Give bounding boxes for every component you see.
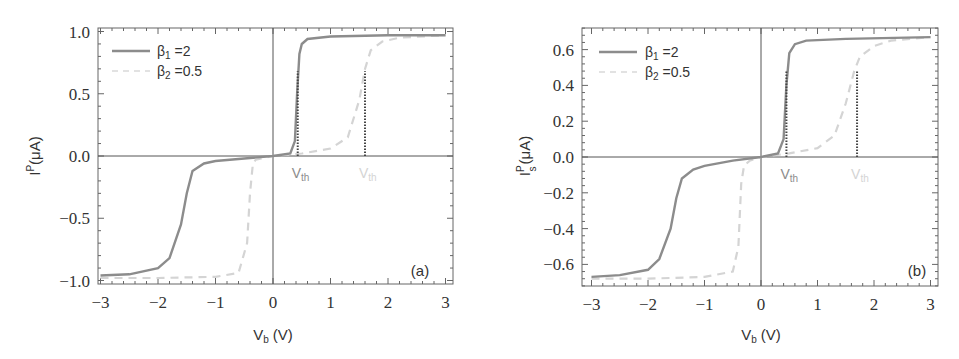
y-tick-labels: 0.60.40.20.0−0.2−0.4−0.6: [543, 41, 574, 275]
x-axis-label: Vb (V): [253, 326, 293, 345]
x-tick-label: 1: [326, 293, 335, 312]
panel-b: 0.60.40.20.0−0.2−0.4−0.6 −3−2−10123 Vth …: [515, 28, 938, 345]
x-tick-labels: −3−2−10123: [91, 293, 449, 312]
y-axis-label: IP(μA): [25, 136, 43, 175]
panel-a: 1.00.50.0−0.5−1.0 −3−2−10123 Vth Vth β1 …: [25, 23, 453, 346]
x-tick-label: 3: [926, 295, 935, 314]
x-tick-label: 1: [813, 295, 822, 314]
x-tick-label: 2: [870, 295, 879, 314]
x-tick-label: −3: [582, 295, 600, 314]
vth-label-beta2: Vth: [359, 165, 377, 183]
vth-label-beta2: Vth: [851, 166, 869, 184]
x-tick-label: −1: [206, 293, 224, 312]
y-tick-label: −0.6: [543, 255, 574, 274]
y-axis-label: IPs(μA): [515, 136, 538, 176]
y-tick-label: −0.5: [59, 209, 90, 228]
vth-label-beta1: Vth: [780, 166, 798, 184]
y-tick-label: −0.4: [543, 220, 574, 239]
x-tick-label: −2: [149, 293, 167, 312]
legend-label-beta1: β1 =2: [645, 44, 679, 62]
y-tick-label: 0.6: [553, 41, 574, 60]
x-tick-labels: −3−2−10123: [582, 295, 934, 314]
vth-label-beta1: Vth: [292, 165, 310, 183]
x-tick-label: 2: [384, 293, 393, 312]
y-tick-label: 0.0: [553, 148, 574, 167]
legend: β1 =2 β2 =0.5: [112, 43, 202, 81]
y-tick-label: 0.5: [69, 85, 90, 104]
x-tick-label: −3: [91, 293, 109, 312]
y-tick-label: 0.2: [553, 112, 574, 131]
legend-label-beta2: β2 =0.5: [645, 64, 690, 82]
x-tick-label: 0: [757, 295, 766, 314]
y-tick-label: 1.0: [69, 23, 90, 42]
y-tick-label: −0.2: [543, 184, 574, 203]
figure: 1.00.50.0−0.5−1.0 −3−2−10123 Vth Vth β1 …: [0, 0, 959, 359]
x-tick-label: −2: [639, 295, 657, 314]
x-axis-label: Vb (V): [741, 326, 781, 345]
y-tick-label: 0.0: [69, 147, 90, 166]
y-tick-labels: 1.00.50.0−0.5−1.0: [59, 23, 90, 291]
y-tick-label: −1.0: [59, 272, 90, 291]
legend-label-beta1: β1 =2: [157, 43, 191, 61]
x-tick-label: −1: [695, 295, 713, 314]
legend: β1 =2 β2 =0.5: [599, 44, 690, 82]
panel-tag: (b): [908, 262, 926, 279]
y-tick-label: 0.4: [553, 76, 575, 95]
x-tick-label: 3: [441, 293, 450, 312]
x-tick-label: 0: [269, 293, 278, 312]
legend-label-beta2: β2 =0.5: [157, 63, 202, 81]
panel-tag: (a): [411, 262, 429, 279]
